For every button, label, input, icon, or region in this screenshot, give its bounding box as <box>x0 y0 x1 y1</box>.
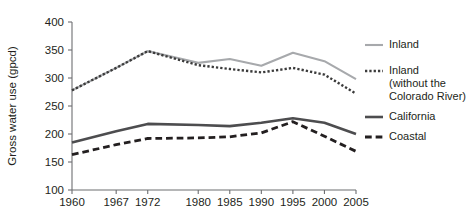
x-tick-label: 2005 <box>343 196 369 208</box>
y-tick-label: 150 <box>45 156 64 168</box>
y-tick-label: 250 <box>45 100 64 112</box>
x-tick-label: 1990 <box>249 196 275 208</box>
y-tick-label: 400 <box>45 16 64 28</box>
legend-label: Inland <box>389 38 419 50</box>
x-tick-label: 2000 <box>312 196 338 208</box>
line-chart: Gross water use (gpcd) 10015020025030035… <box>0 0 470 218</box>
chart-container: Gross water use (gpcd) 10015020025030035… <box>0 0 470 218</box>
y-tick-label: 100 <box>45 184 64 196</box>
x-tick-label: 1967 <box>103 196 129 208</box>
legend-label: Colorado River) <box>389 90 466 102</box>
y-axis-title: Gross water use (gpcd) <box>6 46 18 166</box>
legend-label: California <box>389 110 436 122</box>
legend-label: Coastal <box>389 130 426 142</box>
x-tick-label: 1972 <box>135 196 161 208</box>
y-tick-label: 200 <box>45 128 64 140</box>
y-tick-label: 350 <box>45 44 64 56</box>
x-tick-label: 1995 <box>280 196 306 208</box>
x-tick-label: 1960 <box>59 196 85 208</box>
legend-label: (without the <box>389 77 446 89</box>
x-tick-label: 1985 <box>217 196 243 208</box>
legend-label: Inland <box>389 64 419 76</box>
x-tick-label: 1980 <box>185 196 211 208</box>
y-tick-label: 300 <box>45 72 64 84</box>
